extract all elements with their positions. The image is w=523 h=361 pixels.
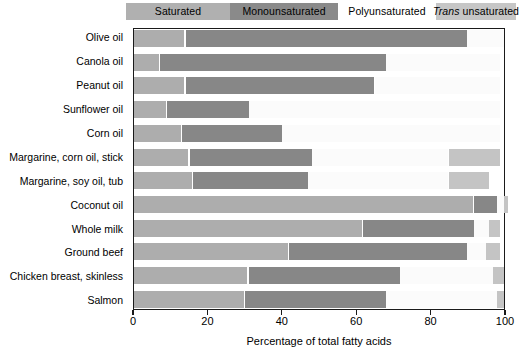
bar-segment-polyunsaturated bbox=[282, 125, 500, 142]
bar-segment-monounsaturated bbox=[289, 243, 467, 260]
bar-row bbox=[134, 30, 504, 47]
bar-segment-trans-unsaturated bbox=[489, 220, 500, 237]
bar-segment-monounsaturated bbox=[186, 77, 375, 94]
x-axis-tick-label: 40 bbox=[276, 316, 288, 327]
bar-segment-trans-unsaturated bbox=[449, 149, 501, 166]
bar-segment-saturated bbox=[134, 172, 193, 189]
bar-row bbox=[134, 101, 504, 118]
bar-segment-monounsaturated bbox=[193, 172, 308, 189]
x-axis-tick-label: 80 bbox=[424, 316, 436, 327]
x-axis-title: Percentage of total fatty acids bbox=[133, 336, 505, 347]
bar-segment-saturated bbox=[134, 220, 363, 237]
x-axis-tick-label: 0 bbox=[130, 316, 136, 327]
bar-segment-saturated bbox=[134, 125, 182, 142]
legend-item-monounsaturated: Monounsaturated bbox=[230, 3, 338, 20]
bar-segment-saturated bbox=[134, 77, 186, 94]
bar-segment-monounsaturated bbox=[363, 220, 474, 237]
bar-segment-monounsaturated bbox=[474, 196, 496, 213]
bar-segment-polyunsaturated bbox=[386, 54, 501, 71]
chart-legend: Saturated Monounsaturated Polyunsaturate… bbox=[126, 3, 516, 20]
y-axis-label: Chicken breast, skinless bbox=[0, 268, 128, 285]
legend-item-polyunsaturated: Polyunsaturated bbox=[338, 3, 436, 20]
bar-segment-saturated bbox=[134, 30, 186, 47]
y-axis-label: Salmon bbox=[0, 292, 128, 309]
bar-segment-trans-unsaturated bbox=[497, 291, 504, 308]
bar-segment-monounsaturated bbox=[182, 125, 282, 142]
bar-segment-polyunsaturated bbox=[312, 149, 449, 166]
y-axis-label: Peanut oil bbox=[0, 77, 128, 94]
legend-label-trans-prefix: Trans bbox=[433, 6, 463, 17]
legend-item-saturated: Saturated bbox=[126, 3, 230, 20]
y-axis-label: Whole milk bbox=[0, 220, 128, 237]
bar-segment-monounsaturated bbox=[167, 101, 248, 118]
bar-row bbox=[134, 196, 504, 213]
y-axis-label: Canola oil bbox=[0, 53, 128, 70]
bar-row bbox=[134, 77, 504, 94]
bar-segment-saturated bbox=[134, 196, 474, 213]
bar-segment-monounsaturated bbox=[186, 30, 467, 47]
bar-segment-saturated bbox=[134, 101, 167, 118]
bar-segment-trans-unsaturated bbox=[449, 172, 490, 189]
x-axis-tick-labels: 020406080100 bbox=[133, 316, 505, 330]
x-axis-tick-label: 100 bbox=[496, 316, 514, 327]
bar-segment-saturated bbox=[134, 149, 190, 166]
bar-segment-polyunsaturated bbox=[497, 196, 504, 213]
legend-label-polyunsaturated: Polyunsaturated bbox=[348, 6, 425, 17]
bar-segment-polyunsaturated bbox=[467, 30, 504, 47]
y-axis-label: Ground beef bbox=[0, 244, 128, 261]
bar-segment-polyunsaturated bbox=[375, 77, 501, 94]
bar-segment-trans-unsaturated bbox=[504, 196, 508, 213]
bar-segment-polyunsaturated bbox=[474, 220, 489, 237]
legend-label-saturated: Saturated bbox=[155, 6, 201, 17]
x-axis-tick-label: 60 bbox=[350, 316, 362, 327]
bar-segment-trans-unsaturated bbox=[486, 243, 501, 260]
bar-row bbox=[134, 149, 504, 166]
y-axis-label: Margarine, corn oil, stick bbox=[0, 149, 128, 166]
x-axis-tick-label: 20 bbox=[201, 316, 213, 327]
bar-segment-polyunsaturated bbox=[308, 172, 449, 189]
bar-segment-trans-unsaturated bbox=[493, 267, 504, 284]
plot-area bbox=[133, 28, 505, 310]
y-axis-labels: Olive oilCanola oilPeanut oilSunflower o… bbox=[0, 28, 128, 310]
bar-row bbox=[134, 172, 504, 189]
bar-segment-saturated bbox=[134, 291, 245, 308]
bar-segment-polyunsaturated bbox=[249, 101, 501, 118]
bar-segment-saturated bbox=[134, 243, 289, 260]
legend-label-monounsaturated: Monounsaturated bbox=[242, 6, 325, 17]
bar-row bbox=[134, 291, 504, 308]
bar-row bbox=[134, 125, 504, 142]
chart-page: Saturated Monounsaturated Polyunsaturate… bbox=[0, 0, 523, 361]
bar-rows bbox=[134, 29, 504, 309]
y-axis-label: Corn oil bbox=[0, 125, 128, 142]
bar-row bbox=[134, 54, 504, 71]
bar-segment-saturated bbox=[134, 267, 249, 284]
bar-row bbox=[134, 243, 504, 260]
bar-segment-monounsaturated bbox=[249, 267, 401, 284]
bar-row bbox=[134, 220, 504, 237]
legend-item-trans-unsaturated: Trans unsaturated bbox=[436, 3, 516, 20]
y-axis-label: Margarine, soy oil, tub bbox=[0, 172, 128, 189]
bar-segment-monounsaturated bbox=[160, 54, 386, 71]
bar-segment-polyunsaturated bbox=[400, 267, 493, 284]
bar-segment-polyunsaturated bbox=[467, 243, 486, 260]
y-axis-label: Sunflower oil bbox=[0, 101, 128, 118]
legend-label-trans: unsaturated bbox=[463, 6, 520, 17]
y-axis-label: Coconut oil bbox=[0, 196, 128, 213]
y-axis-label: Olive oil bbox=[0, 29, 128, 46]
bar-row bbox=[134, 267, 504, 284]
bar-segment-polyunsaturated bbox=[386, 291, 497, 308]
bar-segment-saturated bbox=[134, 54, 160, 71]
bar-segment-monounsaturated bbox=[190, 149, 312, 166]
bar-segment-monounsaturated bbox=[245, 291, 386, 308]
